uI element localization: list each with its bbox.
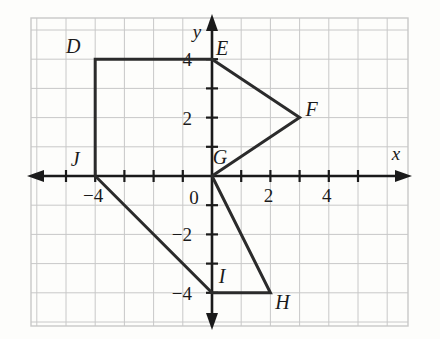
tick-label: −2	[172, 224, 192, 245]
y-axis-label: y	[191, 21, 202, 42]
coordinate-plane-svg: −42442−2−40 DEFGHIJ xy	[0, 0, 440, 339]
tick-label: 4	[322, 185, 332, 206]
point-label-f: F	[304, 98, 318, 120]
point-label-e: E	[215, 37, 228, 59]
point-label-h: H	[274, 291, 291, 313]
point-label-g: G	[213, 146, 228, 168]
tick-label: 0	[189, 187, 199, 208]
tick-label: −4	[83, 185, 104, 206]
tick-label: 2	[264, 185, 274, 206]
x-axis-label: x	[391, 143, 401, 164]
tick-label: −4	[172, 283, 193, 304]
point-label-i: I	[218, 265, 227, 287]
tick-label: 2	[183, 108, 193, 129]
coordinate-plane-figure: −42442−2−40 DEFGHIJ xy	[0, 0, 440, 339]
point-label-d: D	[65, 35, 81, 57]
point-label-j: J	[71, 148, 81, 170]
